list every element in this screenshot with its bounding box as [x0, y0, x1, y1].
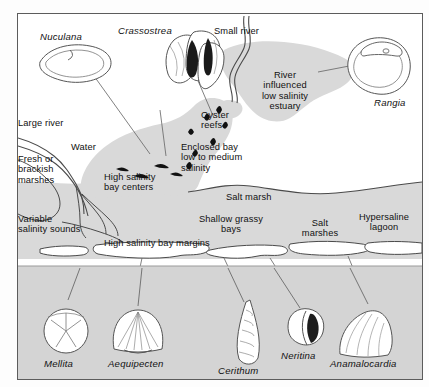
label-oyster-reefs: Oyster reefs [201, 110, 229, 131]
genus-label-neritina: Neritina [281, 351, 316, 362]
label-enclosed-bay: Enclosed bay low to medium salinity [181, 142, 242, 173]
top-specimens [18, 14, 422, 379]
label-river-influenced-estuary: River influenced low salinity estuary [246, 70, 324, 112]
label-water: Water [71, 142, 96, 152]
nuculana-specimen [40, 45, 111, 83]
label-high-salinity-bay-centers: High salinity bay centers [104, 172, 155, 193]
genus-label-crassostrea: Crassostrea [118, 26, 172, 37]
genus-label-rangia: Rangia [374, 98, 406, 109]
genus-label-cerithum: Cerithum [218, 366, 259, 377]
label-large-river: Large river [18, 118, 64, 128]
genus-label-aequipecten: Aequipecten [108, 359, 164, 370]
rangia-specimen [348, 38, 410, 95]
label-high-salinity-bay-margins: High salinity bay margins [104, 238, 210, 248]
crassostrea-specimen [166, 31, 224, 89]
genus-label-nuculana: Nuculana [40, 32, 82, 43]
genus-label-anamalocardia: Anamalocardia [330, 359, 397, 370]
label-salt-marshes: Salt marshes [290, 218, 350, 239]
genus-label-mellita: Mellita [44, 359, 73, 370]
figure-frame: Nuculana Crassostrea Rangia Small river … [17, 13, 423, 380]
label-variable-salinity-sounds: Variable salinity sounds [18, 214, 80, 235]
label-shallow-grassy-bays: Shallow grassy bays [190, 214, 272, 235]
label-small-river: Small river [214, 26, 259, 36]
label-fresh-or-brackish-marshes: Fresh or brackish marshes [18, 154, 54, 185]
estuarine-salinity-figure: Nuculana Crassostrea Rangia Small river … [0, 0, 429, 387]
label-salt-marsh: Salt marsh [226, 192, 271, 202]
label-hypersaline-lagoon: Hypersaline lagoon [348, 212, 420, 233]
